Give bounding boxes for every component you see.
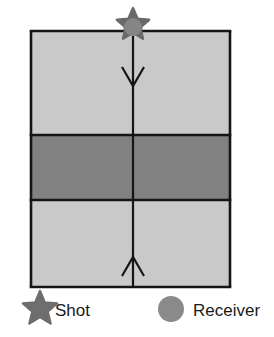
legend-shot-label: Shot <box>55 301 90 320</box>
seismic-layered-model-figure: Shot Receiver <box>0 0 274 337</box>
middle-layer-fill <box>31 135 230 200</box>
lower-layer-fill <box>31 200 230 287</box>
legend-receiver-circle-icon <box>158 296 184 322</box>
legend-receiver-label: Receiver <box>193 301 260 320</box>
figure-canvas: Shot Receiver <box>0 0 274 337</box>
receiver-marker-circle-overlay-icon <box>124 18 142 36</box>
